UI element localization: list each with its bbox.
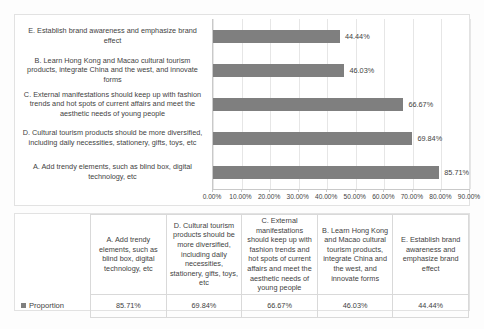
x-axis-tick [440,189,441,192]
bars-area: 44.44% 46.03% 66.67% 69.84% 85.71% [212,19,469,189]
table-col-header-a: A. Add trendy elements, such as blind bo… [91,215,167,295]
x-axis-tick [412,189,413,192]
table-header-row: A. Add trendy elements, such as blind bo… [15,215,469,295]
x-axis-tick [241,189,242,192]
table-value-d: 69.84% [166,294,242,317]
x-axis-tick-label: 10.00% [229,193,251,200]
bar-value-e: 44.44% [345,32,370,41]
x-axis-tick-label: 50.00% [344,193,366,200]
category-label-e: E. Establish brand awareness and emphasi… [15,26,212,45]
category-row: B. Learn Hong Kong and Macao cultural to… [15,53,212,87]
legend-proportion: Proportion [15,294,91,317]
category-label-d: D. Cultural tourism products should be m… [15,128,212,147]
legend-swatch-icon [21,303,26,308]
table-row: Proportion 85.71% 69.84% 66.67% 46.03% 4… [15,294,469,317]
category-row: D. Cultural tourism products should be m… [15,121,212,155]
category-axis: E. Establish brand awareness and emphasi… [15,19,212,189]
category-label-b: B. Learn Hong Kong and Macao cultural to… [15,56,212,85]
bar-e[interactable] [213,30,340,43]
x-axis-tick [298,189,299,192]
table-value-b: 46.03% [317,294,393,317]
chart-page: E. Establish brand awareness and emphasi… [0,0,484,329]
bar-a[interactable] [213,166,439,179]
x-axis-tick [326,189,327,192]
x-axis-line [212,189,469,190]
x-axis-tick-label: 30.00% [286,193,308,200]
x-axis-tick [383,189,384,192]
bar-value-b: 46.03% [349,66,374,75]
bar-row-a: 85.71% [213,155,469,189]
table-value-c: 66.67% [242,294,318,317]
bar-row-d: 69.84% [213,121,469,155]
x-axis-tick [212,189,213,192]
category-row: A. Add trendy elements, such as blind bo… [15,155,212,189]
x-axis: 0.00%10.00%20.00%30.00%40.00%50.00%60.00… [212,189,469,205]
table-corner-cell [15,215,91,295]
x-axis-tick-label: 90.00% [458,193,480,200]
x-axis-tick-label: 0.00% [203,193,222,200]
bar-row-e: 44.44% [213,19,469,53]
bar-chart: E. Establish brand awareness and emphasi… [14,14,470,206]
x-axis-tick [355,189,356,192]
bar-value-a: 85.71% [444,168,469,177]
plot-area: E. Establish brand awareness and emphasi… [15,19,469,189]
table-col-header-d: D. Cultural tourism products should be m… [166,215,242,295]
bar-row-c: 66.67% [213,87,469,121]
category-label-a: A. Add trendy elements, such as blind bo… [15,162,212,181]
bar-d[interactable] [213,132,412,145]
bar-b[interactable] [213,64,344,77]
x-axis-tick [269,189,270,192]
gridline [470,19,471,189]
table-col-header-c: C. External manifestations should keep u… [242,215,318,295]
category-row: E. Establish brand awareness and emphasi… [15,19,212,53]
table-col-header-e: E. Establish brand awareness and emphasi… [393,215,469,295]
category-label-c: C. External manifestations should keep u… [15,90,212,119]
table-value-a: 85.71% [91,294,167,317]
table-value-e: 44.44% [393,294,469,317]
table-col-header-b: B. Learn Hong Kong and Macao cultural to… [317,215,393,295]
data-table: A. Add trendy elements, such as blind bo… [14,213,470,311]
legend-label: Proportion [29,301,64,310]
bar-value-d: 69.84% [417,134,442,143]
bar-value-c: 66.67% [408,100,433,109]
x-axis-tick-label: 70.00% [401,193,423,200]
category-row: C. External manifestations should keep u… [15,87,212,121]
bar-c[interactable] [213,98,403,111]
x-axis-tick-label: 20.00% [258,193,280,200]
x-axis-tick-label: 80.00% [429,193,451,200]
x-axis-tick [469,189,470,192]
bar-row-b: 46.03% [213,53,469,87]
x-axis-tick-label: 60.00% [372,193,394,200]
x-axis-tick-label: 40.00% [315,193,337,200]
